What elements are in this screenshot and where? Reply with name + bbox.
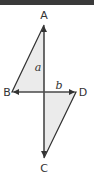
- diagonal-label-a: a: [35, 61, 42, 74]
- vertex-label-a: A: [40, 9, 48, 22]
- vertex-label-d: D: [79, 86, 87, 99]
- diagonal-label-b: b: [55, 79, 62, 92]
- vertex-label-b: B: [3, 86, 11, 99]
- rhombus-diagram: A B D C a b: [0, 0, 94, 179]
- vertex-label-c: C: [40, 162, 48, 175]
